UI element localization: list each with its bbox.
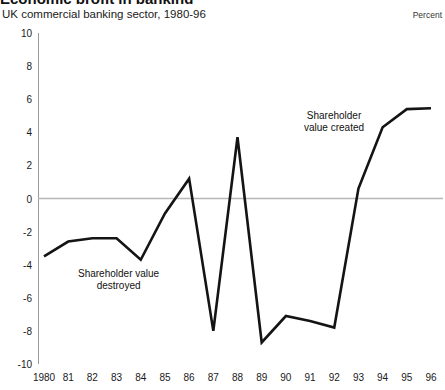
y-axis-tick-label: 8 <box>4 61 32 72</box>
chart-container: Economic profit in banking UK commercial… <box>0 0 445 390</box>
y-axis-tick-label: -4 <box>4 259 32 270</box>
x-axis-tick-label: 81 <box>63 372 74 383</box>
x-axis-tick-label: 82 <box>87 372 98 383</box>
x-axis-tick-label: 96 <box>425 372 436 383</box>
x-axis-tick-label: 89 <box>256 372 267 383</box>
plot-area <box>38 33 443 364</box>
chart-subtitle: UK commercial banking sector, 1980-96 <box>2 8 206 20</box>
y-axis-tick-label: -10 <box>4 359 32 370</box>
x-axis-tick-label: 90 <box>280 372 291 383</box>
chart-title-clipped: Economic profit in banking <box>0 0 445 4</box>
plot-svg <box>38 33 443 364</box>
y-axis-tick-label: 2 <box>4 160 32 171</box>
annotation-created-line2: value created <box>304 122 364 134</box>
annotation-destroyed-line1: Shareholder value <box>78 268 159 280</box>
x-axis-tick-label: 84 <box>135 372 146 383</box>
x-axis-tick-label: 85 <box>159 372 170 383</box>
annotation-value-destroyed: Shareholder value destroyed <box>78 268 159 292</box>
annotation-created-line1: Shareholder <box>304 110 364 122</box>
x-axis-tick-label: 95 <box>401 372 412 383</box>
unit-label: Percent <box>413 10 442 20</box>
y-axis-tick-label: 0 <box>4 193 32 204</box>
x-axis-tick-label: 87 <box>208 372 219 383</box>
x-axis-tick-label: 94 <box>377 372 388 383</box>
x-axis-tick-label: 93 <box>353 372 364 383</box>
annotation-value-created: Shareholder value created <box>304 110 364 134</box>
y-axis-tick-label: 4 <box>4 127 32 138</box>
y-axis-tick-label: 10 <box>4 28 32 39</box>
y-axis-tick-label: -2 <box>4 226 32 237</box>
x-axis-tick-label: 91 <box>305 372 316 383</box>
page-title: Economic profit in banking <box>0 0 445 4</box>
x-axis-tick-label: 92 <box>329 372 340 383</box>
x-axis-tick-label: 83 <box>111 372 122 383</box>
y-axis-tick-label: -8 <box>4 325 32 336</box>
data-series-line <box>44 108 431 342</box>
y-axis-tick-label: 6 <box>4 94 32 105</box>
x-axis-tick-label: 1980 <box>33 372 55 383</box>
y-axis-tick-label: -6 <box>4 292 32 303</box>
x-axis-tick-label: 86 <box>184 372 195 383</box>
annotation-destroyed-line2: destroyed <box>78 280 159 292</box>
x-axis-tick-label: 88 <box>232 372 243 383</box>
